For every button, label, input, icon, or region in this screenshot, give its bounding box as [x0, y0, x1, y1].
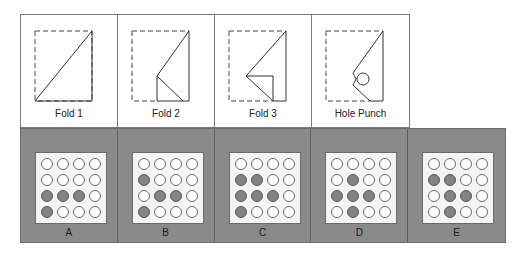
- empty-hole: [57, 206, 69, 218]
- punched-hole: [154, 190, 166, 202]
- empty-hole: [283, 190, 295, 202]
- empty-hole: [186, 190, 198, 202]
- option-d[interactable]: D: [311, 129, 408, 242]
- empty-hole: [283, 158, 295, 170]
- empty-hole: [251, 158, 263, 170]
- empty-hole: [89, 190, 101, 202]
- empty-hole: [267, 158, 279, 170]
- option-a[interactable]: A: [21, 129, 118, 242]
- empty-hole: [428, 190, 440, 202]
- empty-hole: [138, 190, 150, 202]
- empty-hole: [73, 174, 85, 186]
- punched-hole: [235, 206, 247, 218]
- fold-step-3: Fold 3: [215, 15, 312, 127]
- empty-hole: [138, 158, 150, 170]
- empty-hole: [154, 158, 166, 170]
- option-c[interactable]: C: [215, 129, 312, 242]
- empty-hole: [186, 206, 198, 218]
- punched-hole: [347, 190, 359, 202]
- fold-step-2: Fold 2: [118, 15, 215, 127]
- empty-hole: [428, 206, 440, 218]
- punched-hole: [41, 190, 53, 202]
- empty-hole: [267, 206, 279, 218]
- empty-hole: [363, 206, 375, 218]
- empty-hole: [186, 174, 198, 186]
- punched-hole: [235, 174, 247, 186]
- punched-hole: [347, 206, 359, 218]
- option-label: A: [21, 227, 117, 238]
- empty-hole: [347, 158, 359, 170]
- punched-hole: [444, 190, 456, 202]
- fold-label: Fold 3: [215, 108, 311, 119]
- empty-hole: [186, 158, 198, 170]
- empty-hole: [379, 206, 391, 218]
- empty-hole: [476, 174, 488, 186]
- punched-hole: [460, 190, 472, 202]
- hole-punch-step: Hole Punch: [312, 15, 409, 127]
- punched-hole: [331, 190, 343, 202]
- empty-hole: [444, 158, 456, 170]
- empty-hole: [331, 158, 343, 170]
- punched-hole: [57, 190, 69, 202]
- punched-hole: [267, 190, 279, 202]
- hole-grid: [229, 152, 301, 224]
- answer-options: A B C D E: [20, 128, 506, 243]
- empty-hole: [283, 206, 295, 218]
- empty-hole: [170, 206, 182, 218]
- option-b[interactable]: B: [118, 129, 215, 242]
- empty-hole: [154, 174, 166, 186]
- punched-hole: [251, 190, 263, 202]
- empty-hole: [460, 158, 472, 170]
- empty-hole: [235, 158, 247, 170]
- empty-hole: [476, 158, 488, 170]
- hole-grid: [422, 152, 494, 224]
- option-label: B: [118, 227, 214, 238]
- empty-hole: [267, 174, 279, 186]
- empty-hole: [379, 174, 391, 186]
- empty-hole: [331, 174, 343, 186]
- empty-hole: [170, 174, 182, 186]
- punched-hole: [41, 206, 53, 218]
- empty-hole: [363, 158, 375, 170]
- empty-hole: [73, 158, 85, 170]
- fold-label: Hole Punch: [312, 108, 409, 119]
- empty-hole: [57, 158, 69, 170]
- empty-hole: [251, 206, 263, 218]
- punched-hole: [444, 206, 456, 218]
- fold-label: Fold 2: [118, 108, 214, 119]
- empty-hole: [89, 206, 101, 218]
- empty-hole: [476, 190, 488, 202]
- empty-hole: [170, 158, 182, 170]
- option-label: E: [408, 227, 505, 238]
- empty-hole: [41, 158, 53, 170]
- punched-hole: [347, 174, 359, 186]
- fold-label: Fold 1: [21, 108, 117, 119]
- hole-grid: [325, 152, 397, 224]
- hole-grid: [35, 152, 107, 224]
- empty-hole: [460, 174, 472, 186]
- empty-hole: [73, 206, 85, 218]
- punched-hole: [251, 174, 263, 186]
- empty-hole: [283, 174, 295, 186]
- option-label: C: [215, 227, 311, 238]
- punched-hole: [138, 206, 150, 218]
- empty-hole: [331, 206, 343, 218]
- punched-hole: [73, 190, 85, 202]
- punched-hole: [444, 174, 456, 186]
- punched-hole: [170, 190, 182, 202]
- punched-hole: [235, 190, 247, 202]
- empty-hole: [154, 206, 166, 218]
- empty-hole: [476, 206, 488, 218]
- empty-hole: [379, 190, 391, 202]
- punched-hole: [138, 174, 150, 186]
- empty-hole: [379, 158, 391, 170]
- empty-hole: [89, 158, 101, 170]
- punched-hole: [363, 190, 375, 202]
- fold-step-1: Fold 1: [21, 15, 118, 127]
- empty-hole: [460, 206, 472, 218]
- empty-hole: [89, 174, 101, 186]
- empty-hole: [57, 174, 69, 186]
- punched-hole: [428, 174, 440, 186]
- fold-sequence: Fold 1 Fold 2 Fold 3 Hole Punch: [20, 14, 410, 128]
- option-e[interactable]: E: [408, 129, 505, 242]
